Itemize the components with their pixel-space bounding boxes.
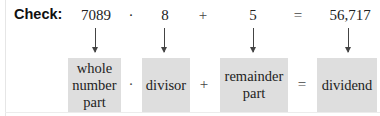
arrow-down-icon <box>253 28 254 52</box>
arrow-down-icon <box>164 28 165 52</box>
box-line: number <box>72 77 116 94</box>
check-label: Check: <box>14 6 62 22</box>
box-label: dividend <box>322 77 373 94</box>
times-operator-lower: · <box>125 76 137 93</box>
box-line: remainder <box>225 68 284 85</box>
box-line: whole <box>72 60 116 77</box>
remainder-value: 5 <box>245 6 261 24</box>
box-line: part <box>72 94 116 111</box>
times-operator: · <box>125 6 137 24</box>
remainder-part-box: remainder part <box>220 58 288 112</box>
box-label: divisor <box>146 77 186 94</box>
arrow-down-icon <box>95 28 96 52</box>
plus-operator: + <box>195 6 211 24</box>
arrow-down-icon <box>348 28 349 52</box>
whole-number-part-box: whole number part <box>68 58 121 112</box>
divisor-value: 8 <box>157 6 173 24</box>
left-rule <box>5 0 6 116</box>
divisor-box: divisor <box>142 58 190 112</box>
quotient-value: 7089 <box>76 6 116 24</box>
dividend-value: 56,717 <box>322 6 378 24</box>
box-line: part <box>225 85 284 102</box>
equals-operator-lower: = <box>295 76 309 93</box>
dividend-box: dividend <box>317 58 377 112</box>
plus-operator-lower: + <box>197 76 211 93</box>
equals-operator: = <box>290 6 306 24</box>
bottom-rule <box>5 112 380 113</box>
